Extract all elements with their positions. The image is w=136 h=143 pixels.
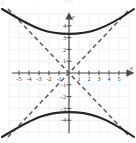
x-tick-label: -2 (46, 75, 51, 82)
lower-branch (2, 112, 134, 137)
x-tick-label: 4 (107, 75, 110, 82)
x-axis-label: x (129, 65, 133, 71)
x-tick-label: 1 (77, 75, 80, 82)
y-tick-label: 2 (63, 46, 66, 53)
y-tick-label: -2 (61, 93, 66, 100)
y-axis-arrow (66, 14, 72, 20)
y-tick-label: -4 (61, 116, 66, 123)
y-axis-label: y (71, 14, 75, 20)
graph-canvas: y x -5 -4 -3 -2 -1 1 2 3 4 5 4 3 2 1 -1 … (0, 0, 136, 143)
y-tick-label: 3 (63, 34, 66, 41)
x-tick-label: 5 (117, 75, 120, 82)
x-tick-label: 3 (97, 75, 100, 82)
x-tick-label: -4 (26, 75, 31, 82)
y-tick-label: 4 (63, 22, 66, 29)
x-axis-arrow (127, 70, 133, 76)
y-tick-label: 1 (63, 57, 66, 64)
x-tick-label: -3 (36, 75, 41, 82)
y-tick-label: -1 (61, 81, 66, 88)
y-tick-label: -3 (61, 105, 66, 112)
axis-name-labels: y x (71, 14, 133, 71)
hyperbola-figure: g .. == (0, 0, 136, 143)
x-tick-label: -5 (16, 75, 21, 82)
upper-branch (2, 9, 134, 34)
x-tick-label: 2 (87, 75, 90, 82)
